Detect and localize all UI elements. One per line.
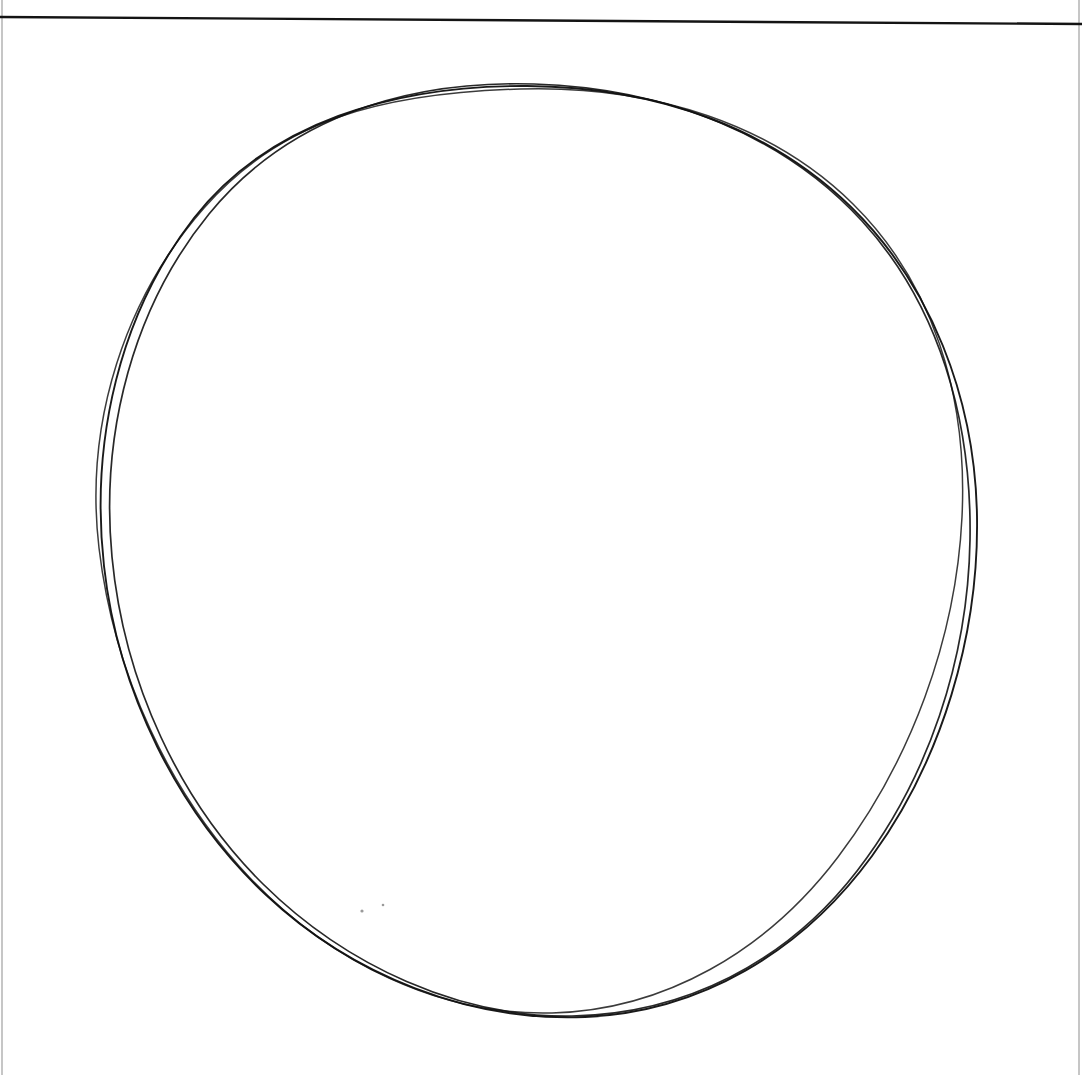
pencil-speck-left: [360, 909, 363, 912]
paper-background: [0, 0, 1082, 1075]
pencil-speck-right: [382, 904, 385, 907]
sketch-canvas: Hand-drawn circle sketch A freehand circ…: [0, 0, 1082, 1075]
sketch-drawing-surface: [0, 0, 1082, 1075]
